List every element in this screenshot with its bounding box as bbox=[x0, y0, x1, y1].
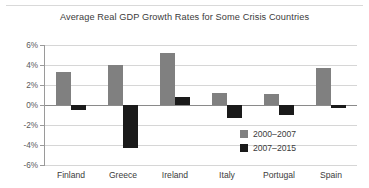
y-axis-tick-mark bbox=[40, 125, 44, 126]
legend-label: 2000–2007 bbox=[253, 129, 296, 139]
bar bbox=[56, 72, 71, 105]
gridline bbox=[45, 85, 357, 86]
y-axis-tick-mark bbox=[40, 165, 44, 166]
x-axis-tick-label: Greece bbox=[109, 170, 137, 180]
gridline bbox=[45, 65, 357, 66]
zero-line bbox=[45, 105, 357, 106]
y-axis-tick-label: -6% bbox=[2, 161, 38, 170]
bar bbox=[71, 105, 86, 110]
gridline bbox=[45, 165, 357, 166]
bar bbox=[279, 105, 294, 115]
x-axis-tick-label: Italy bbox=[219, 170, 235, 180]
x-axis-tick-label: Portugal bbox=[263, 170, 295, 180]
y-axis-tick-mark bbox=[40, 85, 44, 86]
y-axis-tick-label: 6% bbox=[2, 41, 38, 50]
y-axis-labels: 6%4%2%0%-2%-4%-6% bbox=[0, 0, 38, 188]
y-axis-tick-mark bbox=[40, 45, 44, 46]
y-axis-tick-label: -4% bbox=[2, 141, 38, 150]
x-axis-labels: FinlandGreeceIrelandItalyPortugalSpain bbox=[45, 170, 357, 186]
x-axis-tick-label: Spain bbox=[320, 170, 342, 180]
bar bbox=[123, 105, 138, 148]
legend-item: 2000–2007 bbox=[240, 127, 335, 140]
y-axis-tick-label: -2% bbox=[2, 121, 38, 130]
bar bbox=[227, 105, 242, 118]
y-axis-tick-label: 0% bbox=[2, 101, 38, 110]
gridline bbox=[45, 125, 357, 126]
y-axis-tick-label: 2% bbox=[2, 81, 38, 90]
y-axis-tick-mark bbox=[40, 145, 44, 146]
x-axis-tick-label: Finland bbox=[57, 170, 85, 180]
y-axis-tick-label: 4% bbox=[2, 61, 38, 70]
bar bbox=[160, 53, 175, 105]
y-axis-tick-mark bbox=[40, 105, 44, 106]
legend-swatch-icon bbox=[240, 130, 248, 138]
y-axis-tick-mark bbox=[40, 65, 44, 66]
chart-legend: 2000–2007 2007–2015 bbox=[240, 127, 335, 155]
bar bbox=[316, 68, 331, 105]
x-axis-tick-label: Ireland bbox=[162, 170, 188, 180]
bar bbox=[212, 93, 227, 105]
bar bbox=[108, 65, 123, 105]
gridline bbox=[45, 45, 357, 46]
bar bbox=[264, 94, 279, 105]
legend-swatch-icon bbox=[240, 144, 248, 152]
chart-container: Average Real GDP Growth Rates for Some C… bbox=[0, 0, 369, 188]
chart-title: Average Real GDP Growth Rates for Some C… bbox=[0, 12, 369, 22]
bar bbox=[331, 105, 346, 108]
bar bbox=[175, 97, 190, 105]
top-divider bbox=[6, 5, 363, 6]
legend-label: 2007–2015 bbox=[253, 143, 296, 153]
legend-item: 2007–2015 bbox=[240, 141, 335, 154]
